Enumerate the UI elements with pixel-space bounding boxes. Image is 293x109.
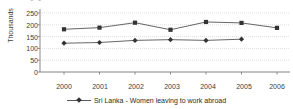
square-marker bbox=[239, 21, 243, 25]
diamond-marker bbox=[168, 37, 173, 42]
series-layer bbox=[61, 20, 279, 46]
legend: Sri Lanka - Women leaving to work abroad bbox=[0, 96, 293, 104]
diamond-marker bbox=[203, 38, 208, 43]
square-marker bbox=[133, 21, 137, 25]
legend-label: Sri Lanka - Women leaving to work abroad bbox=[94, 97, 226, 104]
square-marker bbox=[97, 26, 101, 30]
square-marker bbox=[275, 26, 279, 30]
chart-container: ▪ ▪ Thousands 250 200 150 100 50 0 2000 … bbox=[0, 0, 293, 109]
plot-area bbox=[0, 0, 293, 95]
legend-line-segment-2 bbox=[81, 100, 91, 101]
diamond-marker bbox=[239, 37, 244, 42]
axis-lines bbox=[38, 9, 291, 75]
legend-item: Sri Lanka - Women leaving to work abroad bbox=[67, 96, 226, 104]
square-marker bbox=[204, 20, 208, 24]
diamond-marker-icon bbox=[76, 97, 82, 103]
diamond-marker bbox=[97, 40, 102, 45]
diamond-marker bbox=[61, 41, 66, 46]
square-marker bbox=[168, 28, 172, 32]
square-marker bbox=[62, 27, 66, 31]
series-line-1 bbox=[64, 39, 242, 43]
diamond-marker bbox=[132, 38, 137, 43]
